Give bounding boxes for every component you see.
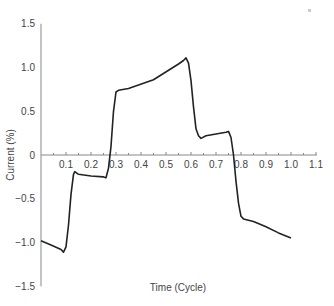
x-tick-label: 0.8: [234, 159, 248, 170]
x-tick-label: 0.1: [59, 159, 73, 170]
x-tick-label: 0.3: [109, 159, 123, 170]
y-tick-label: 1.0: [21, 62, 35, 73]
x-tick-label: 1.0: [284, 159, 298, 170]
y-tick-label: 0.5: [21, 106, 35, 117]
y-tick-label: −1.5: [15, 281, 35, 292]
y-tick-label: 0: [29, 150, 35, 161]
x-tick-label: 1.1: [309, 159, 323, 170]
corner-mark: [308, 9, 311, 12]
x-tick-label: 0.2: [84, 159, 98, 170]
y-tick-label: 1.5: [21, 18, 35, 29]
x-tick-label: 0.7: [209, 159, 223, 170]
x-axis: 0.10.20.30.40.50.60.70.80.91.01.1: [41, 152, 323, 170]
line-chart: 1.51.00.50−0.5−1.0−1.5 0.10.20.30.40.50.…: [0, 0, 334, 306]
y-axis: 1.51.00.50−0.5−1.0−1.5: [15, 18, 41, 292]
y-axis-title: Current (%): [5, 129, 16, 181]
x-tick-label: 0.6: [184, 159, 198, 170]
x-axis-title: Time (Cycle): [150, 282, 206, 293]
x-tick-label: 0.4: [134, 159, 148, 170]
x-tick-label: 0.5: [159, 159, 173, 170]
y-tick-label: −0.5: [15, 193, 35, 204]
y-tick-label: −1.0: [15, 237, 35, 248]
x-tick-label: 0.9: [259, 159, 273, 170]
